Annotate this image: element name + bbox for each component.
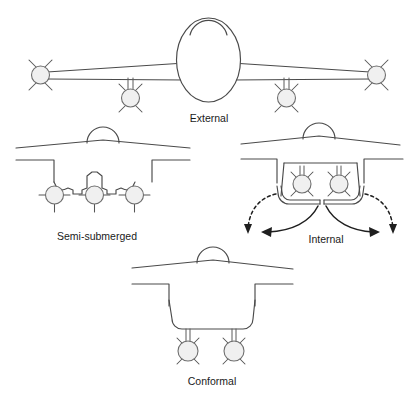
fuselage-contour — [16, 160, 190, 194]
store-semi-3 — [119, 186, 150, 212]
store-conformal-2 — [223, 329, 245, 364]
panel-label-conformal: Conformal — [188, 375, 236, 387]
right-wing — [232, 63, 370, 80]
panel-external: External — [29, 18, 388, 124]
panel-label-internal: Internal — [308, 233, 343, 245]
left-wing — [47, 63, 185, 80]
fuselage — [177, 18, 241, 102]
panel-semi-submerged: Semi-submerged — [16, 127, 190, 242]
fuselage-contour — [241, 159, 403, 196]
store-internal-1 — [291, 166, 313, 196]
store-left-underwing — [119, 78, 142, 112]
panel-conformal: Conformal — [132, 247, 293, 387]
store-carriage-diagram: External — [0, 0, 417, 410]
store-conformal-1 — [177, 329, 199, 364]
panel-internal: Internal — [241, 123, 403, 245]
figure-root: External — [0, 0, 417, 410]
fuselage-contour — [132, 284, 293, 329]
store-left-wingtip — [29, 60, 52, 90]
wing-line — [132, 260, 293, 269]
store-semi-1 — [39, 186, 70, 212]
store-internal-2 — [328, 166, 350, 196]
wing-line — [16, 140, 190, 148]
panel-label-semi-submerged: Semi-submerged — [57, 230, 137, 242]
panel-label-external: External — [190, 112, 229, 124]
wing-line — [241, 136, 400, 145]
store-right-wingtip — [365, 60, 388, 90]
store-right-underwing — [275, 78, 298, 112]
